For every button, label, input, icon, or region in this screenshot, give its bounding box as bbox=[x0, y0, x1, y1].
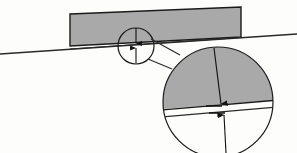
figure-root bbox=[0, 0, 297, 153]
technical-diagram-canvas bbox=[0, 0, 297, 153]
magnified-dimension-arrow-lower bbox=[224, 115, 226, 153]
gray-block bbox=[70, 7, 241, 46]
leader-line-lower bbox=[148, 59, 172, 69]
